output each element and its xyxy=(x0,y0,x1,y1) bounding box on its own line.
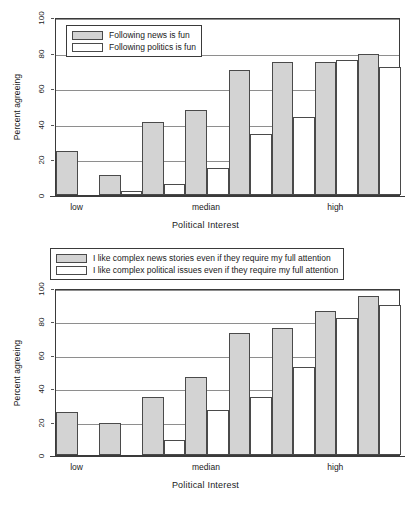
legend-item-0: Following news is fun xyxy=(72,29,196,41)
y-tick-label: 20 xyxy=(37,156,46,165)
x-tick-label-median: median xyxy=(192,202,220,212)
y-tick-mark xyxy=(51,423,54,424)
bar-series2-1 xyxy=(121,191,143,195)
y-tick-label: 80 xyxy=(37,318,46,327)
bar-series2-4 xyxy=(250,134,272,195)
x-axis-line xyxy=(50,456,405,457)
legend-item-1: I like complex political issues even if … xyxy=(56,264,338,276)
plot-area xyxy=(55,289,400,456)
y-tick-label: 40 xyxy=(37,120,46,129)
bar-series2-4 xyxy=(250,397,272,455)
x-axis-title: Political Interest xyxy=(0,220,411,230)
legend-label: Following politics is fun xyxy=(109,42,196,52)
bar-series2-7 xyxy=(379,67,401,195)
y-tick-mark xyxy=(51,18,54,19)
y-tick-0: 0 xyxy=(34,451,48,461)
y-tick-40: 40 xyxy=(34,120,48,130)
y-tick-label: 40 xyxy=(37,385,46,394)
y-tick-mark xyxy=(51,289,54,290)
legend-label: Following news is fun xyxy=(109,30,190,40)
y-tick-label: 60 xyxy=(37,351,46,360)
x-tick-label-low: low xyxy=(70,462,83,472)
gridline-100 xyxy=(56,19,399,20)
bar-series1-6 xyxy=(315,311,337,455)
y-tick-60: 60 xyxy=(34,351,48,361)
y-tick-label: 20 xyxy=(37,418,46,427)
y-tick-mark xyxy=(51,89,54,90)
bar-series1-1 xyxy=(99,423,121,455)
chart-following-news-politics: Percent agreeing020406080100lowmedianhig… xyxy=(0,0,411,243)
legend-item-0: I like complex news stories even if they… xyxy=(56,252,338,264)
y-tick-label: 60 xyxy=(37,85,46,94)
bar-series2-6 xyxy=(336,60,358,195)
legend-swatch-gray xyxy=(72,31,103,40)
y-tick-100: 100 xyxy=(34,13,48,23)
y-tick-label: 80 xyxy=(37,49,46,58)
y-tick-0: 0 xyxy=(34,191,48,201)
x-axis-title: Political Interest xyxy=(0,480,411,490)
gridline-100 xyxy=(56,290,399,291)
y-tick-label: 0 xyxy=(37,194,46,198)
y-axis-title: Percent agreeing xyxy=(12,339,22,405)
y-tick-mark xyxy=(51,54,54,55)
bar-series2-5 xyxy=(293,117,315,195)
y-tick-label: 100 xyxy=(37,282,46,295)
legend-label: I like complex political issues even if … xyxy=(93,265,338,275)
bar-series2-3 xyxy=(207,168,229,195)
y-tick-20: 20 xyxy=(34,155,48,165)
bar-series1-0 xyxy=(56,151,78,196)
y-tick-60: 60 xyxy=(34,84,48,94)
y-tick-80: 80 xyxy=(34,49,48,59)
bar-series2-3 xyxy=(207,410,229,455)
legend-swatch-white xyxy=(72,43,103,52)
bar-series1-3 xyxy=(185,377,207,455)
bar-series2-5 xyxy=(293,367,315,456)
x-tick-label-low: low xyxy=(70,202,83,212)
y-tick-20: 20 xyxy=(34,418,48,428)
legend-swatch-white xyxy=(56,266,87,275)
bar-series1-4 xyxy=(229,70,251,195)
y-tick-label: 0 xyxy=(37,454,46,458)
y-tick-80: 80 xyxy=(34,317,48,327)
bar-series1-2 xyxy=(142,122,164,195)
bar-series1-5 xyxy=(272,62,294,196)
bar-series1-6 xyxy=(315,62,337,196)
x-axis-line xyxy=(50,196,405,197)
bar-series1-0 xyxy=(56,412,78,455)
chart-legend: I like complex news stories even if they… xyxy=(50,248,344,280)
bar-series1-7 xyxy=(358,54,380,195)
bar-series1-3 xyxy=(185,110,207,195)
legend-item-1: Following politics is fun xyxy=(72,41,196,53)
y-tick-mark xyxy=(51,125,54,126)
y-tick-40: 40 xyxy=(34,384,48,394)
bar-series2-2 xyxy=(164,184,186,195)
y-tick-mark xyxy=(51,389,54,390)
bar-series2-6 xyxy=(336,318,358,455)
y-tick-mark xyxy=(51,160,54,161)
y-axis-title: Percent agreeing xyxy=(12,74,22,140)
chart-legend: Following news is funFollowing politics … xyxy=(66,25,202,57)
bar-series1-2 xyxy=(142,397,164,455)
y-tick-100: 100 xyxy=(34,284,48,294)
legend-swatch-gray xyxy=(56,254,87,263)
bar-series1-5 xyxy=(272,328,294,455)
bar-series1-4 xyxy=(229,333,251,455)
y-tick-mark xyxy=(51,322,54,323)
legend-label: I like complex news stories even if they… xyxy=(93,253,331,263)
x-tick-label-high: high xyxy=(327,462,343,472)
bar-series1-7 xyxy=(358,296,380,455)
bar-series2-2 xyxy=(164,440,186,455)
y-tick-mark xyxy=(51,356,54,357)
bar-series2-7 xyxy=(379,305,401,455)
chart-complex-news-politics: Percent agreeing020406080100lowmedianhig… xyxy=(0,243,411,509)
bar-series1-1 xyxy=(99,175,121,195)
y-tick-label: 100 xyxy=(37,11,46,24)
x-tick-label-high: high xyxy=(327,202,343,212)
x-tick-label-median: median xyxy=(192,462,220,472)
